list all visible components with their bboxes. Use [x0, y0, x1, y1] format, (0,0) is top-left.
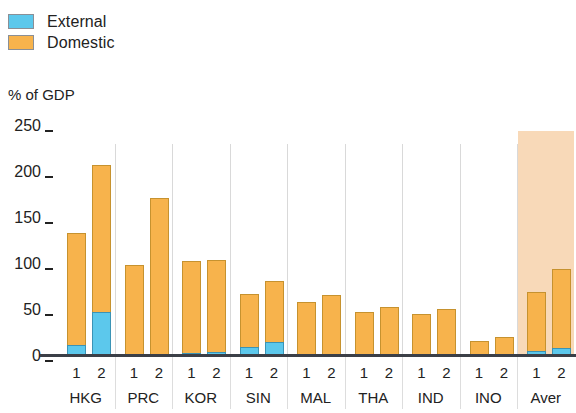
y-tick-mark	[45, 314, 53, 316]
x-sub-label-aver-1: 1	[527, 364, 546, 381]
y-tick-label: 250	[14, 118, 41, 134]
bar-segment-domestic	[265, 281, 284, 343]
x-group-label-prc: PRC	[115, 389, 173, 406]
y-tick-250: 250	[14, 117, 53, 135]
group-separator	[115, 144, 116, 356]
bar-segment-domestic	[182, 261, 201, 353]
bar-aver-1[interactable]	[527, 292, 546, 356]
bar-hkg-1[interactable]	[67, 233, 86, 356]
bar-mal-2[interactable]	[322, 295, 341, 356]
bar-ind-2[interactable]	[437, 309, 456, 356]
x-sub-label-sin-1: 1	[240, 364, 259, 381]
bar-segment-domestic	[125, 265, 144, 354]
bar-segment-domestic	[240, 294, 259, 346]
bar-tha-2[interactable]	[380, 307, 399, 356]
y-tick-label: 200	[14, 164, 41, 180]
x-group-label-kor: KOR	[172, 389, 230, 406]
x-sub-label-prc-2: 2	[150, 364, 169, 381]
bar-segment-domestic	[495, 337, 514, 354]
bar-kor-2[interactable]	[207, 260, 226, 356]
y-tick-mark	[45, 130, 53, 132]
y-tick-50: 50	[23, 301, 53, 319]
bar-segment-domestic	[380, 307, 399, 354]
x-sub-label-kor-2: 2	[207, 364, 226, 381]
bar-segment-domestic	[437, 309, 456, 354]
y-tick-label: 50	[23, 302, 41, 318]
legend-label-external: External	[47, 14, 107, 30]
y-tick-label: 150	[14, 210, 41, 226]
group-separator	[345, 144, 346, 356]
x-sub-label-mal-2: 2	[322, 364, 341, 381]
x-sub-label-sin-2: 2	[265, 364, 284, 381]
x-group-label-aver: Aver	[517, 389, 575, 406]
x-sub-label-ino-2: 2	[495, 364, 514, 381]
x-group-label-hkg: HKG	[57, 389, 115, 406]
bar-prc-2[interactable]	[150, 198, 169, 356]
bar-segment-domestic	[150, 198, 169, 354]
bar-hkg-2[interactable]	[92, 165, 111, 356]
x-group-label-mal: MAL	[287, 389, 345, 406]
bar-segment-domestic	[297, 302, 316, 354]
bar-segment-domestic	[322, 295, 341, 354]
y-tick-100: 100	[14, 255, 53, 273]
bar-segment-domestic	[67, 233, 86, 345]
x-sub-label-hkg-2: 2	[92, 364, 111, 381]
bar-prc-1[interactable]	[125, 265, 144, 356]
y-tick-mark	[45, 268, 53, 270]
x-sub-label-tha-2: 2	[380, 364, 399, 381]
bar-segment-domestic	[355, 312, 374, 354]
group-separator	[230, 144, 231, 356]
bar-tha-1[interactable]	[355, 312, 374, 356]
x-sub-label-tha-1: 1	[355, 364, 374, 381]
bar-segment-domestic	[470, 341, 489, 354]
group-separator	[517, 144, 518, 356]
y-tick-mark	[45, 222, 53, 224]
y-axis-ticks: 250200150100500	[0, 0, 53, 413]
bond-market-size-chart: External Domestic % of GDP 2502001501005…	[0, 0, 576, 413]
bar-segment-domestic	[552, 269, 571, 348]
plot-area	[57, 120, 576, 356]
y-tick-150: 150	[14, 209, 53, 227]
bar-segment-domestic	[412, 314, 431, 354]
x-group-label-ind: IND	[402, 389, 460, 406]
bar-segment-domestic	[92, 165, 111, 312]
y-tick-label: 100	[14, 256, 41, 272]
group-separator	[460, 144, 461, 356]
x-sub-label-mal-1: 1	[297, 364, 316, 381]
group-separator	[402, 144, 403, 356]
group-separator	[172, 144, 173, 356]
x-sub-label-ind-2: 2	[437, 364, 456, 381]
bar-segment-external	[92, 312, 111, 356]
x-group-label-ino: INO	[460, 389, 518, 406]
x-group-label-tha: THA	[345, 389, 403, 406]
bar-segment-domestic	[207, 260, 226, 352]
legend-label-domestic: Domestic	[47, 35, 114, 51]
group-separator	[287, 144, 288, 356]
bar-sin-2[interactable]	[265, 281, 284, 356]
x-axis-labels: 12HKG12PRC12KOR12SIN12MAL12THA12IND12INO…	[0, 357, 576, 413]
y-tick-200: 200	[14, 163, 53, 181]
x-sub-label-hkg-1: 1	[67, 364, 86, 381]
x-sub-label-ind-1: 1	[412, 364, 431, 381]
x-sub-label-ino-1: 1	[470, 364, 489, 381]
x-group-label-sin: SIN	[230, 389, 288, 406]
bar-aver-2[interactable]	[552, 269, 571, 356]
bar-sin-1[interactable]	[240, 294, 259, 356]
x-sub-label-prc-1: 1	[125, 364, 144, 381]
y-tick-mark	[45, 176, 53, 178]
bar-kor-1[interactable]	[182, 261, 201, 356]
x-sub-label-kor-1: 1	[182, 364, 201, 381]
bar-ind-1[interactable]	[412, 314, 431, 356]
x-sub-label-aver-2: 2	[552, 364, 571, 381]
bar-mal-1[interactable]	[297, 302, 316, 356]
bar-segment-domestic	[527, 292, 546, 352]
